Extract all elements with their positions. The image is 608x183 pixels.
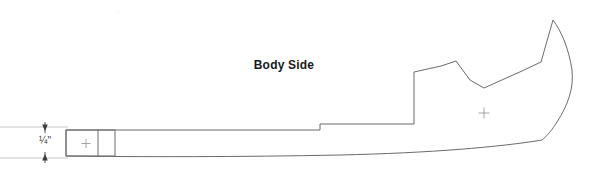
alignment-tab xyxy=(66,130,115,156)
dimension-label: ¼" xyxy=(30,135,60,146)
body-side-outline xyxy=(66,20,572,157)
tab-crosshair-icon xyxy=(82,139,91,148)
drawing-svg xyxy=(0,0,608,183)
technical-drawing-canvas: Body Side xyxy=(0,0,608,183)
registration-mark xyxy=(117,11,118,12)
page-title-text: Body Side xyxy=(254,58,314,72)
body-crosshair-icon xyxy=(479,108,490,119)
page-title: Body Side xyxy=(0,58,608,72)
